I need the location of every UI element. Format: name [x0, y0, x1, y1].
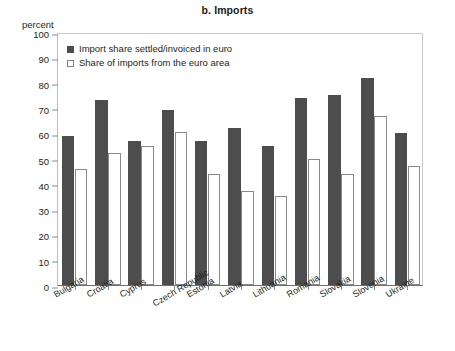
- bar-import-share-euro: [128, 141, 141, 285]
- bar-group: [357, 34, 390, 285]
- bar-share-imports-euro-area: [341, 174, 354, 285]
- bar-group: [125, 34, 158, 285]
- bar-group: [191, 34, 224, 285]
- y-axis-tick: 70: [38, 104, 58, 115]
- bar-group: [391, 34, 424, 285]
- bar-group: [58, 34, 91, 285]
- bar-import-share-euro: [295, 98, 308, 285]
- y-axis-tick: 100: [33, 29, 58, 40]
- bar-import-share-euro: [62, 136, 75, 285]
- bar-share-imports-euro-area: [75, 169, 88, 285]
- bar-group: [324, 34, 357, 285]
- bar-import-share-euro: [195, 141, 208, 285]
- bar-share-imports-euro-area: [141, 146, 154, 285]
- bar-group: [158, 34, 191, 285]
- bar-share-imports-euro-area: [374, 116, 387, 286]
- bar-share-imports-euro-area: [408, 166, 421, 285]
- bar-import-share-euro: [395, 133, 408, 285]
- y-axis-tick: 20: [38, 231, 58, 242]
- y-axis-tick: 40: [38, 180, 58, 191]
- bar-share-imports-euro-area: [208, 174, 221, 285]
- y-axis-tick: 80: [38, 79, 58, 90]
- bar-group: [258, 34, 291, 285]
- bar-import-share-euro: [262, 146, 275, 285]
- bar-import-share-euro: [228, 128, 241, 285]
- y-axis-tick: 60: [38, 130, 58, 141]
- plot-area: 0102030405060708090100 Import share sett…: [57, 33, 423, 286]
- bar-share-imports-euro-area: [241, 191, 254, 285]
- bar-group: [224, 34, 257, 285]
- bar-share-imports-euro-area: [175, 132, 188, 285]
- bar-import-share-euro: [95, 100, 108, 285]
- bar-import-share-euro: [361, 78, 374, 285]
- bar-group: [91, 34, 124, 285]
- chart-title: b. Imports: [0, 4, 455, 16]
- y-axis-tick: 30: [38, 206, 58, 217]
- bar-group: [291, 34, 324, 285]
- bar-import-share-euro: [328, 95, 341, 285]
- bar-share-imports-euro-area: [308, 159, 321, 286]
- bar-series-container: [58, 34, 422, 285]
- bar-import-share-euro: [162, 110, 175, 285]
- chart-figure: b. Imports percent 010203040506070809010…: [0, 0, 455, 351]
- y-axis-tick: 90: [38, 54, 58, 65]
- y-axis-tick: 50: [38, 155, 58, 166]
- bar-share-imports-euro-area: [108, 153, 121, 285]
- y-axis-tick: 10: [38, 256, 58, 267]
